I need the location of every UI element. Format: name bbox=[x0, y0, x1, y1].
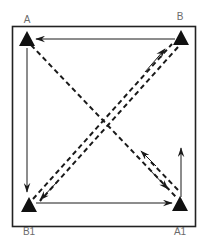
arrow-head-toward-b1 bbox=[40, 181, 58, 200]
cone-b bbox=[173, 30, 189, 45]
field-border bbox=[13, 27, 196, 227]
cone-a1 bbox=[172, 196, 188, 211]
cone-b1 bbox=[21, 197, 37, 212]
label-b: B bbox=[177, 12, 184, 22]
cone-a bbox=[19, 31, 35, 46]
drill-diagram bbox=[0, 0, 208, 240]
label-a: A bbox=[24, 15, 31, 25]
arrow-head-toward-a1 bbox=[148, 168, 168, 189]
dashed-b1-to-b bbox=[33, 44, 172, 199]
label-b1: B1 bbox=[23, 227, 35, 237]
label-a1: A1 bbox=[174, 227, 186, 237]
arrow-head-toward-b bbox=[145, 49, 165, 72]
